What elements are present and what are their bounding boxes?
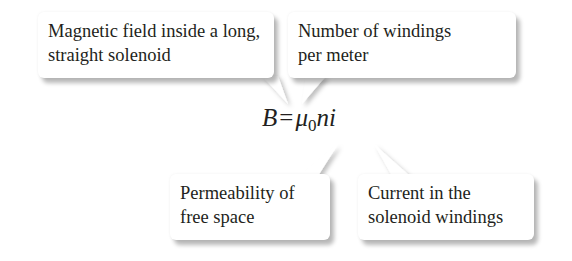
callout-text-line: free space xyxy=(180,205,320,229)
callout-text-line: solenoid windings xyxy=(368,205,524,229)
callout-magnetic-field: Magnetic field inside a long, straight s… xyxy=(38,12,274,78)
pointer-permeability xyxy=(300,144,338,176)
callout-permeability: Permeability of free space xyxy=(170,174,330,240)
callout-current: Current in the solenoid windings xyxy=(358,174,534,240)
callout-text-line: Current in the xyxy=(368,181,524,205)
callout-text-line: Number of windings xyxy=(298,19,506,43)
pointer-magnetic-field xyxy=(262,76,288,104)
solenoid-field-formula: B=μ0ni xyxy=(262,104,336,136)
callout-text-line: Magnetic field inside a long, xyxy=(48,19,264,43)
pointer-current xyxy=(374,144,410,176)
pointer-windings xyxy=(302,76,326,104)
formula-lhs: B xyxy=(262,104,277,131)
callout-text-line: Permeability of xyxy=(180,181,320,205)
callout-windings-per-meter: Number of windings per meter xyxy=(288,12,516,78)
formula-rest: ni xyxy=(316,104,335,131)
callout-text-line: per meter xyxy=(298,43,506,67)
callout-text-line: straight solenoid xyxy=(48,43,264,67)
formula-mu: μ xyxy=(295,104,308,131)
formula-equals: = xyxy=(279,104,293,131)
